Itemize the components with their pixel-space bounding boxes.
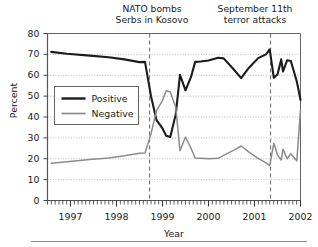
x-axis-ticks bbox=[48, 201, 301, 207]
legend-label-positive: Positive bbox=[92, 93, 128, 104]
y-tick-label-0: 0 bbox=[20, 195, 40, 206]
legend-label-negative: Negative bbox=[92, 108, 134, 119]
y-tick-label-30: 30 bbox=[20, 132, 40, 143]
y-tick-label-70: 70 bbox=[20, 48, 40, 59]
y-axis-label: Percent bbox=[8, 71, 19, 131]
footer-divider bbox=[31, 241, 307, 242]
y-tick-label-20: 20 bbox=[20, 153, 40, 164]
y-tick-label-80: 80 bbox=[20, 28, 40, 39]
x-axis-label: Year bbox=[47, 228, 301, 239]
x-tick-label-1998: 1998 bbox=[99, 211, 135, 222]
x-tick-label-1999: 1999 bbox=[145, 211, 181, 222]
y-tick-label-60: 60 bbox=[20, 69, 40, 80]
y-tick-label-50: 50 bbox=[20, 90, 40, 101]
x-tick-label-2000: 2000 bbox=[191, 211, 227, 222]
x-tick-label-2001: 2001 bbox=[237, 211, 273, 222]
x-tick-label-1997: 1997 bbox=[53, 211, 89, 222]
x-tick-label-2002: 2002 bbox=[283, 211, 318, 222]
y-tick-label-40: 40 bbox=[20, 111, 40, 122]
y-tick-label-10: 10 bbox=[20, 174, 40, 185]
chart-figure: NATO bombs Serbs in Kosovo September 11t… bbox=[0, 0, 317, 247]
